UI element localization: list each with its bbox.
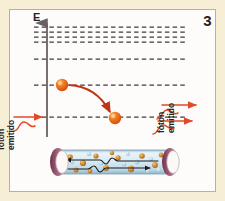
photon-caption-right-line2: emitido [167, 103, 177, 133]
electron-excited [56, 79, 68, 91]
laser-tube [50, 148, 179, 176]
energy-axis-label: E [33, 11, 40, 23]
electron-ground [109, 112, 121, 124]
photon-caption-left-line2: emitido [7, 120, 17, 150]
photon-caption-left: fóton emitido [0, 120, 16, 150]
incident-photon-left [14, 117, 42, 131]
figure-root: 3 E fóton emitido fóton emitido [0, 0, 225, 201]
electron-transition-arrow [69, 85, 110, 112]
photon-caption-right: fóton emitido [157, 103, 176, 133]
panel-number: 3 [203, 12, 212, 29]
mirror-right [162, 148, 179, 176]
incident-photon-wave [14, 122, 35, 131]
laser-stimulated-emission-diagram [0, 0, 225, 201]
mirror-left [50, 148, 68, 176]
